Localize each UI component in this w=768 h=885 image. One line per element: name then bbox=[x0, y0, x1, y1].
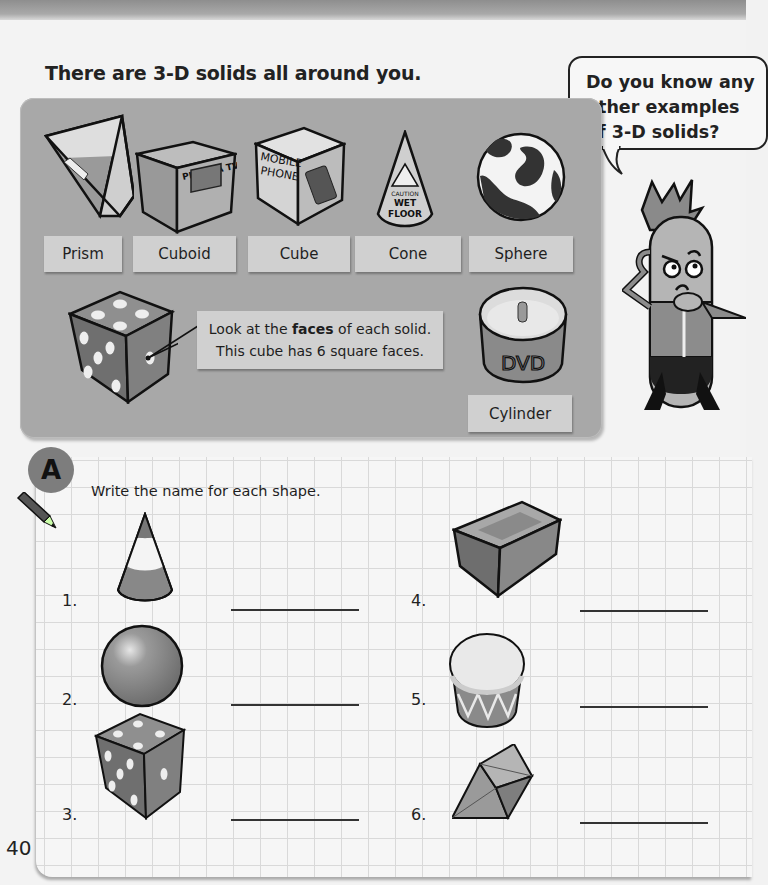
prism-icon bbox=[452, 744, 534, 822]
answer-line-5[interactable] bbox=[580, 706, 708, 708]
label-prism: Prism bbox=[44, 236, 122, 272]
callout-line-2: This cube has 6 square faces. bbox=[197, 340, 443, 362]
bubble-line: other examples bbox=[586, 95, 756, 120]
label-cube: Cube bbox=[248, 236, 350, 272]
answer-line-4[interactable] bbox=[580, 610, 708, 612]
label-sphere: Sphere bbox=[469, 236, 573, 272]
bubble-text: Do you know any other examples of 3-D so… bbox=[586, 70, 756, 145]
bubble-line: Do you know any bbox=[586, 70, 756, 95]
bubble-line: of 3-D solids? bbox=[586, 120, 756, 145]
callout-text: of each solid. bbox=[334, 321, 432, 337]
cube-example-icon: MOBILE PHONE bbox=[254, 126, 346, 226]
answer-line-1[interactable] bbox=[231, 609, 359, 611]
cone-icon bbox=[114, 512, 176, 606]
cylinder-icon bbox=[446, 632, 528, 732]
question-number: 3. bbox=[62, 805, 77, 824]
callout-line-1: Look at the faces of each solid. bbox=[197, 318, 443, 340]
cube-icon bbox=[94, 712, 188, 820]
question-number: 2. bbox=[62, 690, 77, 709]
question-number: 5. bbox=[411, 690, 426, 709]
answer-line-6[interactable] bbox=[580, 822, 708, 824]
label-cuboid: Cuboid bbox=[133, 236, 236, 272]
section-badge: A bbox=[28, 447, 74, 493]
prism-example-icon bbox=[44, 112, 134, 224]
cone-example-icon: CAUTION WET FLOOR bbox=[374, 130, 436, 232]
intro-heading: There are 3-D solids all around you. bbox=[45, 62, 421, 84]
page-number: 40 bbox=[6, 836, 31, 860]
callout-bold: faces bbox=[292, 321, 334, 337]
svg-text:WET: WET bbox=[394, 198, 417, 208]
question-number: 4. bbox=[411, 591, 426, 610]
sphere-icon bbox=[100, 624, 184, 708]
cuboid-example-icon: PLASMA TV bbox=[135, 140, 237, 234]
label-cone: Cone bbox=[355, 236, 461, 272]
pencil-icon bbox=[16, 492, 58, 530]
exercise-instruction: Write the name for each shape. bbox=[91, 483, 321, 499]
faces-callout: Look at the faces of each solid. This cu… bbox=[197, 311, 443, 369]
cuboid-icon bbox=[452, 500, 562, 598]
callout-text: Look at the bbox=[209, 321, 292, 337]
svg-text:CAUTION: CAUTION bbox=[391, 190, 418, 197]
answer-line-3[interactable] bbox=[231, 819, 359, 821]
label-cylinder: Cylinder bbox=[468, 395, 572, 432]
pointer-line-icon bbox=[148, 318, 200, 362]
thinking-character-icon bbox=[622, 172, 746, 412]
svg-text:FLOOR: FLOOR bbox=[388, 209, 422, 219]
svg-text:DVD: DVD bbox=[501, 351, 545, 375]
top-band bbox=[0, 0, 746, 20]
cylinder-example-icon: DVD bbox=[476, 284, 570, 388]
sphere-example-icon bbox=[476, 132, 566, 222]
question-number: 6. bbox=[411, 805, 426, 824]
answer-line-2[interactable] bbox=[231, 704, 359, 706]
question-number: 1. bbox=[62, 591, 77, 610]
